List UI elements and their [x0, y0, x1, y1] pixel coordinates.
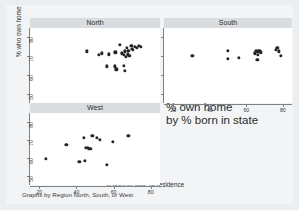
plot-area-south: [164, 28, 292, 103]
x-tick-label: 40: [207, 107, 213, 113]
data-point: [98, 138, 101, 141]
data-point: [226, 57, 229, 60]
x-tick-label: 20: [170, 107, 176, 113]
data-point: [111, 140, 114, 143]
data-point: [237, 56, 240, 59]
data-point: [89, 147, 92, 150]
data-point: [85, 50, 88, 53]
data-point: [257, 54, 260, 57]
plot-area-west: [30, 113, 160, 185]
y-axis-line: [163, 28, 164, 103]
data-point: [139, 45, 142, 48]
x-tick-label: 80: [148, 189, 154, 195]
figure-canvas: % who own home % born in state of reside…: [6, 5, 293, 204]
data-point: [278, 50, 281, 53]
data-point: [114, 51, 117, 54]
y-tick-label: 70: [28, 56, 34, 62]
x-tick-label: 60: [111, 189, 117, 195]
x-tick-label: 40: [74, 189, 80, 195]
data-point: [279, 54, 282, 57]
panel-west: West5060708020406080: [30, 103, 160, 187]
data-point: [191, 54, 194, 57]
data-point: [78, 160, 81, 163]
y-tick: [161, 75, 163, 76]
data-point: [107, 53, 110, 56]
panel-title-west: West: [30, 103, 160, 113]
panel-north: North50607080: [30, 18, 160, 105]
x-axis-line: [30, 186, 160, 187]
y-tick-label: 60: [28, 75, 34, 81]
x-tick-label: 20: [36, 189, 42, 195]
data-point: [127, 134, 130, 137]
y-axis-title: % who own home: [15, 7, 22, 57]
data-point: [226, 49, 229, 52]
y-tick: [161, 37, 163, 38]
x-tick-label: 60: [243, 107, 249, 113]
y-tick: [161, 94, 163, 95]
y-tick-label: 80: [28, 37, 34, 43]
plot-area-north: [30, 28, 160, 103]
y-tick-label: 70: [28, 140, 34, 146]
panel-title-south: South: [164, 18, 292, 28]
data-point: [105, 65, 108, 68]
y-tick-label: 80: [28, 122, 34, 128]
panel-south: South20406080: [164, 18, 292, 105]
data-point: [65, 143, 68, 146]
data-point: [127, 49, 130, 52]
overlay-line-2: by % born in state: [166, 114, 258, 127]
data-point: [256, 58, 259, 61]
y-tick-label: 60: [28, 158, 34, 164]
data-point: [128, 54, 131, 57]
x-tick-label: 80: [280, 107, 286, 113]
data-point: [122, 64, 125, 67]
x-axis-line: [164, 104, 292, 105]
data-point: [259, 51, 262, 54]
data-point: [123, 69, 126, 72]
data-point: [118, 43, 121, 46]
data-point: [82, 137, 85, 140]
data-point: [115, 68, 118, 71]
panel-title-north: North: [30, 18, 160, 28]
data-point: [44, 157, 47, 160]
data-point: [83, 159, 86, 162]
y-tick-label: 50: [28, 176, 34, 182]
data-point: [91, 134, 94, 137]
figure-root: % who own home % born in state of reside…: [0, 0, 299, 210]
data-point: [100, 52, 103, 55]
y-tick-label: 50: [28, 94, 34, 100]
data-point: [105, 164, 108, 167]
y-tick: [161, 56, 163, 57]
data-point: [131, 48, 134, 51]
